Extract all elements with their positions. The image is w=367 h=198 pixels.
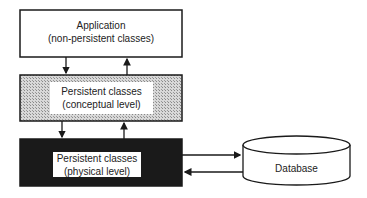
physical-label: Persistent classes (physical level) xyxy=(53,152,141,178)
application-title: Application xyxy=(20,19,182,32)
application-subtitle: (non-persistent classes) xyxy=(20,32,182,45)
conceptual-subtitle: (conceptual level) xyxy=(50,98,153,111)
physical-subtitle: (physical level) xyxy=(53,165,141,178)
physical-title: Persistent classes xyxy=(53,152,141,165)
database-cylinder xyxy=(243,136,350,185)
application-label: Application (non-persistent classes) xyxy=(20,19,182,45)
conceptual-title: Persistent classes xyxy=(50,85,153,98)
conceptual-label: Persistent classes (conceptual level) xyxy=(50,85,153,111)
database-label: Database xyxy=(243,162,350,175)
